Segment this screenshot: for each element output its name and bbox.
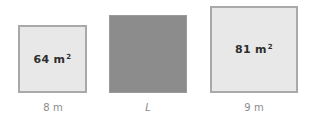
area-label-81: 81 m2: [235, 43, 273, 56]
side-label-L: L: [118, 102, 178, 113]
square-81: 81 m2: [210, 6, 298, 93]
square-64: 64 m2: [18, 25, 87, 93]
square-unknown-L: [109, 15, 187, 93]
side-label-8m: 8 m: [23, 102, 83, 113]
side-label-9m: 9 m: [224, 102, 284, 113]
area-label-64: 64 m2: [34, 53, 72, 66]
